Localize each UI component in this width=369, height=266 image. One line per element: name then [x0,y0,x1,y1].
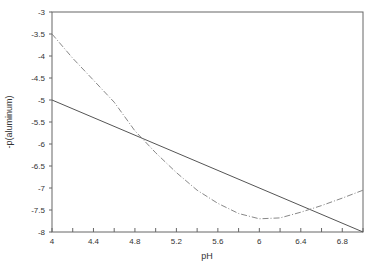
x-tick-label: 4.4 [88,237,100,246]
y-tick-label: -5 [38,96,46,105]
y-tick-label: -8 [38,228,46,237]
plot-border [52,12,363,232]
x-axis: 44.44.85.25.666.46.8 [50,228,363,246]
y-tick-label: -7.5 [31,206,45,215]
series-layer [52,34,363,232]
y-tick-label: -3 [38,8,46,17]
y-tick-label: -7 [38,184,46,193]
y-tick-label: -3.5 [31,30,45,39]
y-tick-label: -6 [38,140,46,149]
x-tick-label: 5.2 [171,237,183,246]
series-line-1 [52,100,363,232]
x-tick-label: 6.8 [337,237,349,246]
y-tick-label: -5.5 [31,118,45,127]
line-chart: 44.44.85.25.666.46.8 -3-3.5-4-4.5-5-5.5-… [0,0,369,266]
x-tick-label: 5.6 [212,237,224,246]
plot-frame [52,12,363,232]
x-tick-label: 6.4 [295,237,307,246]
y-axis-label: -p(aluminum) [4,95,14,148]
y-tick-label: -4 [38,52,46,61]
x-tick-label: 4 [50,237,55,246]
chart: 44.44.85.25.666.46.8 -3-3.5-4-4.5-5-5.5-… [0,0,369,266]
series-line-2 [52,34,363,219]
x-axis-label: pH [201,251,213,261]
x-tick-label: 4.8 [129,237,141,246]
y-tick-label: -4.5 [31,74,45,83]
y-axis: -3-3.5-4-4.5-5-5.5-6-6.5-7-7.5-8 [31,8,52,237]
x-tick-label: 6 [257,237,262,246]
y-tick-label: -6.5 [31,162,45,171]
